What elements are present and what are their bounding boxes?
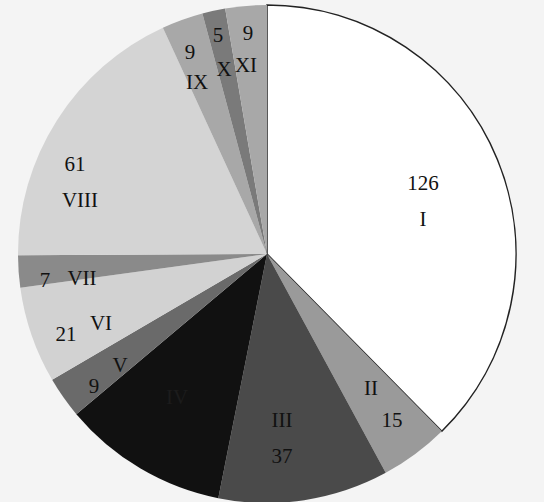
slice-label-i: I: [420, 207, 427, 231]
slice-label-viii: VIII: [62, 188, 98, 212]
slice-value-x: 5: [213, 23, 224, 47]
slice-label-v: V: [112, 353, 127, 377]
slice-value-ii: 15: [382, 408, 403, 432]
pie-chart: 126I15II37IIIIV9V21VI7VII61VIII9IX5X9XI: [0, 0, 544, 502]
slice-label-x: X: [216, 57, 231, 81]
slice-label-iii: III: [272, 408, 293, 432]
slice-value-ix: 9: [185, 40, 196, 64]
slice-value-vii: 7: [40, 268, 51, 292]
slice-value-vi: 21: [56, 322, 77, 346]
slice-label-vi: VI: [90, 311, 112, 335]
pie-slices: [18, 5, 516, 502]
slice-label-vii: VII: [67, 266, 96, 290]
slice-value-i: 126: [407, 171, 439, 195]
slice-value-iii: 37: [272, 444, 293, 468]
slice-label-ii: II: [364, 376, 378, 400]
slice-label-iv: IV: [166, 385, 188, 409]
slice-value-viii: 61: [65, 152, 86, 176]
slice-value-v: 9: [89, 374, 100, 398]
slice-label-xi: XI: [235, 53, 257, 77]
slice-label-ix: IX: [186, 70, 208, 94]
slice-value-xi: 9: [243, 21, 254, 45]
